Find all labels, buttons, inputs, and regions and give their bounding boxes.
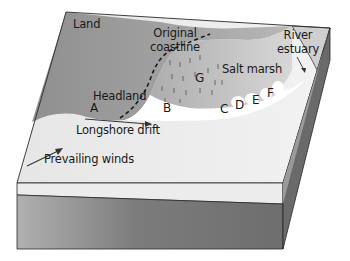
marker-b: B <box>163 102 171 114</box>
marker-d: D <box>235 99 244 111</box>
label-prevailing-winds: Prevailing winds <box>44 154 134 166</box>
marker-f: F <box>267 87 274 99</box>
front-face-lower-layer <box>17 195 283 249</box>
marker-g: G <box>195 72 204 84</box>
marker-a: A <box>90 102 98 114</box>
label-headland: Headland <box>93 91 146 103</box>
label-salt-marsh: Salt marsh <box>222 64 282 76</box>
label-original-coastline-line2: coastline <box>140 42 210 54</box>
label-river-estuary: River estuary <box>268 30 328 55</box>
marker-c: C <box>220 103 228 115</box>
label-longshore-drift: Longshore drift <box>76 125 160 137</box>
label-original-coastline-line1: Original <box>140 28 210 40</box>
label-land: Land <box>73 19 100 31</box>
label-river-estuary-line1: River <box>268 30 328 42</box>
label-original-coastline: Original coastline <box>140 28 210 53</box>
label-river-estuary-line2: estuary <box>268 44 328 56</box>
marker-e: E <box>252 94 259 106</box>
